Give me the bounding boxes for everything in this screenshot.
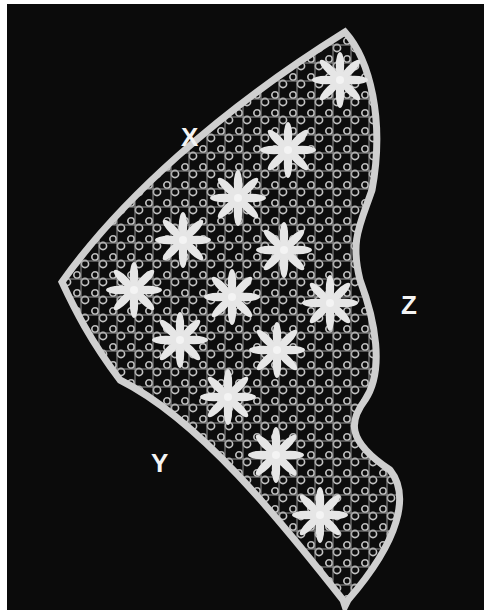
label-z: Z [401, 292, 417, 318]
label-y: Y [151, 450, 168, 476]
label-x: X [181, 124, 198, 150]
lace-photograph: X Z Y [7, 4, 484, 610]
